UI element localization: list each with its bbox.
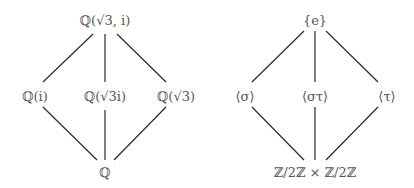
- group-middle-node-sigma: ⟨σ⟩: [235, 90, 254, 103]
- group-bottom-node: ℤ/2ℤ × ℤ/2ℤ: [274, 166, 356, 179]
- edge-e-to-sigma: [252, 31, 304, 82]
- group-middle-node-sigmatau: ⟨στ⟩: [302, 90, 328, 103]
- edge-sigma-to-klein: [252, 107, 304, 160]
- group-top-node: {e}: [303, 14, 327, 27]
- edge-qsqrt3-to-q: [114, 107, 166, 160]
- edge-top-to-qi: [43, 34, 93, 82]
- field-bottom-node: ℚ: [99, 166, 110, 179]
- edge-top-to-qsqrt3: [117, 34, 166, 82]
- edge-qi-to-q: [43, 107, 97, 160]
- edge-e-to-tau: [326, 31, 378, 82]
- field-middle-node-qi: ℚ(i): [22, 90, 48, 103]
- lattice-edges: [0, 0, 414, 188]
- field-top-node: ℚ(√3, i): [80, 14, 130, 27]
- group-middle-node-tau: ⟨τ⟩: [378, 90, 395, 103]
- field-middle-node-qsqrt3i: ℚ(√3i): [84, 90, 126, 103]
- field-middle-node-qsqrt3: ℚ(√3): [157, 90, 195, 103]
- edge-tau-to-klein: [326, 107, 378, 160]
